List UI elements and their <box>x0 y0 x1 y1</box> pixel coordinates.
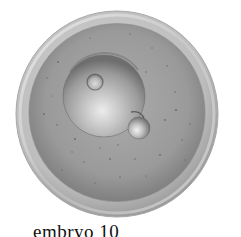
embryo-illustration <box>0 0 241 222</box>
figure-caption: embryo 10 <box>33 222 119 237</box>
nucleolus <box>87 74 103 90</box>
embryo-figure: embryo 10 <box>0 0 241 237</box>
